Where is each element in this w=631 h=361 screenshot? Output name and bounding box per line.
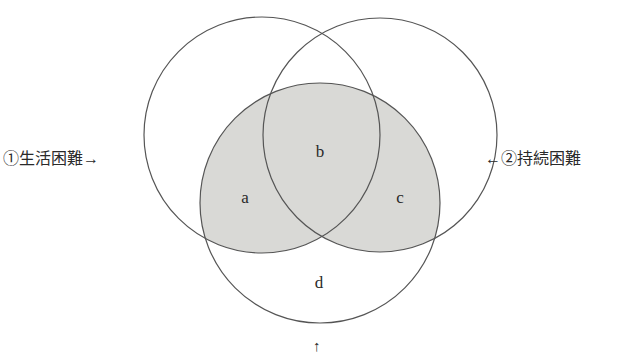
sustain-difficulty-label: ←②持続困難 [485, 145, 581, 169]
region-c-label: c [396, 188, 404, 208]
region-a-label: a [241, 188, 249, 208]
living-difficulty-label: ①生活困難→ [3, 145, 99, 169]
venn-diagram [0, 0, 631, 361]
up-arrow-icon: ↑ [313, 338, 321, 355]
shaded-region [144, 17, 497, 253]
region-d-label: d [315, 273, 324, 293]
region-b-label: b [316, 142, 325, 162]
